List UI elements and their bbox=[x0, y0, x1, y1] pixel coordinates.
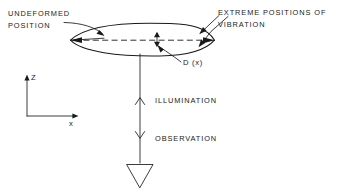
x-axis-label: x bbox=[69, 119, 73, 128]
amplitude-label: D (x) bbox=[183, 58, 203, 67]
extreme-positions-lens bbox=[71, 23, 215, 56]
z-axis-label: Z bbox=[31, 73, 36, 82]
ray-path bbox=[127, 54, 153, 188]
amplitude-indicator bbox=[154, 32, 181, 62]
coordinate-axes: Z x bbox=[24, 73, 78, 128]
observation-arrowhead-triangle bbox=[127, 165, 153, 188]
undeformed-position-label-line2: POSITION bbox=[8, 21, 51, 30]
vibration-diagram: UNDEFORMED POSITION EXTREME POSITIONS OF… bbox=[0, 0, 347, 194]
amplitude-arrowhead-up bbox=[154, 32, 160, 37]
extreme-positions-label-line2: VIBRATION bbox=[218, 20, 265, 29]
undeformed-leader-arrowhead bbox=[97, 30, 105, 36]
extreme-positions-label-line1: EXTREME POSITIONS OF bbox=[218, 8, 326, 17]
undeformed-position-label-line1: UNDEFORMED bbox=[8, 9, 70, 18]
observation-label: OBSERVATION bbox=[155, 134, 217, 143]
z-axis-arrowhead bbox=[24, 75, 29, 81]
extreme-position-lower-curve bbox=[71, 40, 215, 56]
illumination-label: ILLUMINATION bbox=[155, 96, 217, 105]
extreme-position-upper-curve bbox=[71, 23, 215, 40]
figure-canvas: UNDEFORMED POSITION EXTREME POSITIONS OF… bbox=[0, 0, 347, 194]
x-axis-arrowhead bbox=[72, 113, 78, 118]
